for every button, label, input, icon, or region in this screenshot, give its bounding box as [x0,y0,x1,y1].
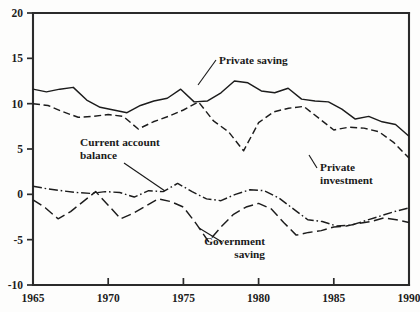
government-saving-label: Government [204,235,265,247]
chart-container: -10-505101520 196519701975198019851990 P… [0,0,420,312]
annotation-leader-line [309,155,317,168]
annotation-leader-line [124,163,165,191]
x-axis-ticks: 196519701975198019851990 [22,278,420,304]
series-line-government-saving [33,192,409,242]
y-axis-tick-label: 15 [12,52,24,64]
series-line-current-account-balance [33,183,409,226]
line-chart: -10-505101520 196519701975198019851990 P… [0,0,420,312]
y-axis-tick-label: 10 [12,98,24,110]
annotation-group: Private savingCurrent accountbalancePriv… [80,54,373,260]
x-axis-tick-label: 1980 [247,292,270,304]
x-axis-tick-label: 1970 [97,292,120,304]
private-saving-label: Private saving [219,54,288,66]
private-investment-label: Private [320,161,355,173]
y-axis-tick-label: 0 [17,188,23,200]
private-investment-label: investment [320,174,373,186]
government-saving-label: saving [234,248,265,260]
annotation-leader-line [198,60,216,85]
current-account-balance-label: balance [80,149,117,161]
x-axis-tick-label: 1975 [172,292,195,304]
x-axis-tick-label: 1965 [22,292,45,304]
y-axis-ticks: -10-505101520 [8,7,33,291]
y-axis-tick-label: 20 [12,7,24,19]
current-account-balance-label: Current account [80,136,160,148]
y-axis-tick-label: -5 [13,234,23,246]
x-axis-tick-label: 1990 [398,292,420,304]
y-axis-tick-label: 5 [17,143,23,155]
y-axis-tick-label: -10 [8,279,24,291]
x-axis-tick-label: 1985 [322,292,345,304]
